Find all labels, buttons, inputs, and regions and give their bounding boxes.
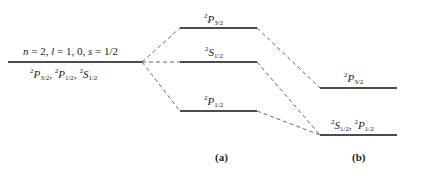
label-a-p32: 2P3/2 — [204, 13, 223, 27]
caption-a: (a) — [215, 151, 228, 163]
label-b-p32: 2P3/2 — [344, 72, 363, 86]
label-b-s12-p12: 2S1/2, 2P1/2 — [331, 119, 374, 133]
unperturbed-states-label: 2P3/2, 2P1/2, 2S1/2 — [30, 68, 97, 82]
label-a-p12: 2P1/2 — [204, 95, 223, 109]
quantum-numbers-label: n = 2, l = 1, 0, s = 1/2 — [23, 46, 118, 57]
caption-b: (b) — [352, 151, 365, 163]
label-a-s12: 2S1/2 — [205, 46, 223, 60]
